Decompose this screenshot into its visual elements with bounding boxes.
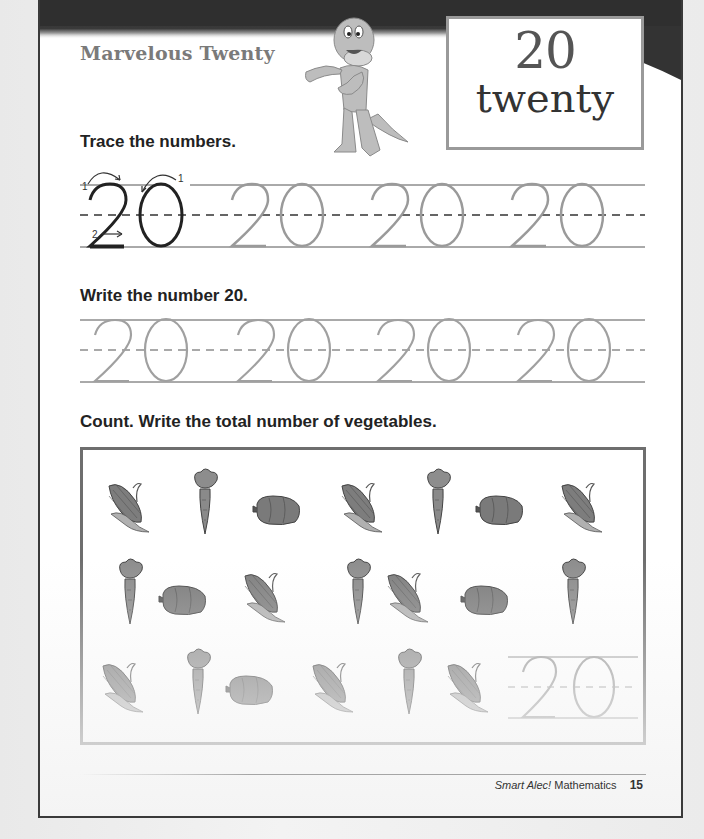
page-number: 15 [630,778,643,792]
footer-brand: Smart Alec! [495,779,551,791]
number-card: 20 twenty [446,16,644,150]
pepper-icon [253,496,300,525]
corn-icon [562,484,602,533]
corn-icon [109,484,149,533]
dragon-mascot-icon [296,10,416,160]
worksheet-page: Marvelous Twenty 20 twenty Trace the num… [38,0,683,818]
count-instruction: Count. Write the total number of vegetab… [80,412,437,432]
write-instruction: Write the number 20. [80,286,248,306]
worksheet-title: Marvelous Twenty [80,42,275,64]
number-card-numeral: 20 [449,25,641,77]
trace-writing-lines[interactable]: 1 2 1 [80,170,645,260]
footer-divider [80,774,646,775]
svg-text:1: 1 [82,181,88,192]
veg-row-1 [109,469,602,534]
stroke-order-arrows [88,173,176,237]
trace-instruction: Trace the numbers. [80,132,236,152]
corn-icon [342,484,382,533]
page-footer: Smart Alec! Mathematics 15 [495,778,643,792]
svg-text:2: 2 [92,229,98,240]
write-writing-lines[interactable] [80,315,645,390]
number-card-word: twenty [449,75,641,121]
carrot-icon [428,469,451,534]
svg-text:1: 1 [178,173,184,184]
pepper-icon [476,496,523,525]
footer-subject: Mathematics [554,779,616,791]
carrot-icon [195,469,218,534]
